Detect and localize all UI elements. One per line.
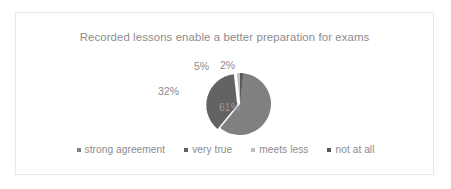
legend-item-strong-agreement[interactable]: strong agreement <box>77 144 166 155</box>
legend-label: meets less <box>259 144 308 155</box>
legend-swatch-icon <box>327 148 331 152</box>
legend-label: not at all <box>335 144 374 155</box>
pie-plot-area: 32% 5% 2% 61% strong agreement very true… <box>16 13 435 176</box>
legend-label: strong agreement <box>85 144 166 155</box>
pie-label-meets-less: 5% <box>194 60 209 72</box>
pie-label-very-true: 32% <box>158 85 179 97</box>
pie-label-strong-agreement: 61% <box>219 101 240 113</box>
chart-legend: strong agreement very true meets less no… <box>16 144 435 155</box>
legend-item-not-at-all[interactable]: not at all <box>327 144 374 155</box>
legend-item-meets-less[interactable]: meets less <box>251 144 308 155</box>
legend-swatch-icon <box>184 148 188 152</box>
legend-swatch-icon <box>251 148 255 152</box>
chart-frame: Recorded lessons enable a better prepara… <box>15 12 434 175</box>
pie-label-not-at-all: 2% <box>220 59 235 71</box>
legend-label: very true <box>192 144 232 155</box>
legend-swatch-icon <box>77 148 81 152</box>
pie-chart <box>176 61 306 141</box>
legend-item-very-true[interactable]: very true <box>184 144 232 155</box>
